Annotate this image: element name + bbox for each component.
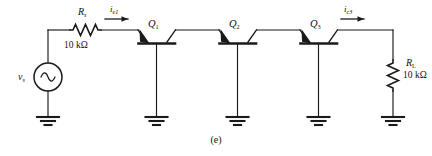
- label-rs-name: R: [77, 6, 84, 17]
- value-resistor-rs: 10 kΩ: [64, 40, 88, 50]
- label-ic3-subscript: c3: [347, 8, 353, 15]
- circuit-diagram: vs Rs 10 kΩ ie1 ic3 Q1 Q2 Q3 RL 10 kΩ (e…: [0, 0, 432, 156]
- figure-caption: (e): [210, 134, 221, 146]
- label-q2-subscript: 2: [237, 23, 240, 30]
- label-q1-subscript: 1: [156, 23, 159, 30]
- label-rl-name: R: [405, 57, 412, 68]
- schematic-canvas: vs Rs 10 kΩ ie1 ic3 Q1 Q2 Q3 RL 10 kΩ (e…: [0, 0, 432, 156]
- label-ie1-subscript: e1: [113, 8, 119, 15]
- figure-background: [0, 0, 432, 156]
- label-q3-subscript: 3: [318, 23, 321, 30]
- label-rl-subscript: L: [412, 62, 416, 69]
- value-resistor-rl: 10 kΩ: [403, 70, 427, 80]
